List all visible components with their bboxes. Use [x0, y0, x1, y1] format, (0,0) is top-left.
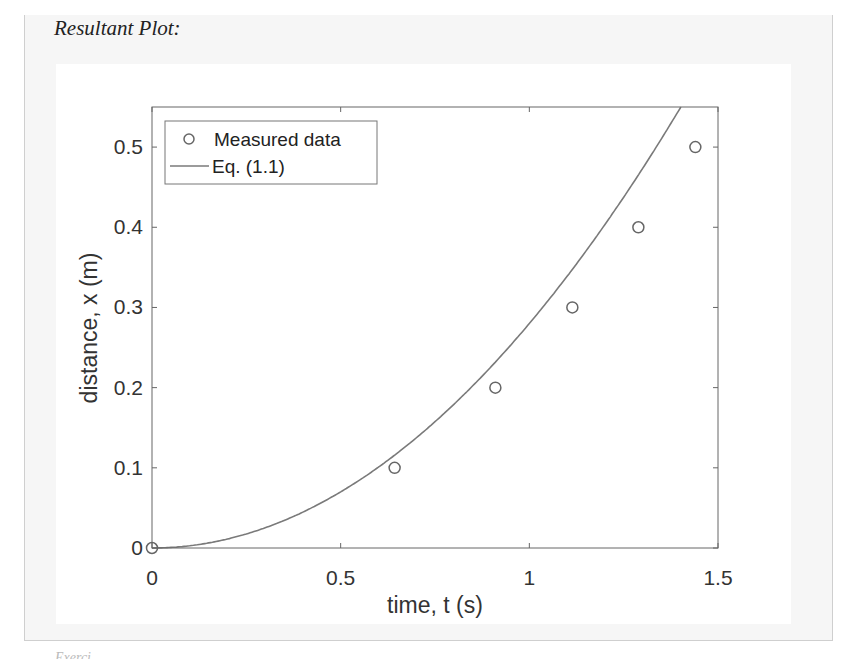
- y-tick-label: 0.4: [114, 215, 144, 238]
- footer-text-fragment: Exerci: [55, 650, 91, 659]
- y-tick-label: 0.5: [114, 135, 143, 158]
- legend-label-measured: Measured data: [214, 129, 341, 150]
- x-tick-label: 1: [523, 566, 535, 589]
- chart: 00.511.5 00.10.20.30.40.5 time, t (s) di…: [0, 0, 856, 659]
- data-point-marker: [567, 302, 578, 313]
- x-axis-label: time, t (s): [387, 592, 483, 618]
- x-tick-label: 1.5: [703, 566, 732, 589]
- x-tick-label: 0.5: [326, 566, 355, 589]
- y-tick-label: 0: [131, 536, 143, 559]
- data-point-marker: [389, 462, 400, 473]
- y-axis-ticks: 00.10.20.30.40.5: [114, 135, 718, 559]
- legend-label-equation: Eq. (1.1): [212, 156, 285, 177]
- y-tick-label: 0.3: [114, 295, 143, 318]
- data-point-marker: [633, 222, 644, 233]
- data-point-marker: [490, 382, 501, 393]
- legend: Measured data Eq. (1.1): [165, 121, 377, 184]
- y-tick-label: 0.1: [114, 456, 143, 479]
- y-tick-label: 0.2: [114, 376, 143, 399]
- y-axis-label: distance, x (m): [76, 253, 102, 404]
- x-tick-label: 0: [146, 566, 158, 589]
- measured-data-markers: [147, 142, 701, 554]
- data-point-marker: [690, 142, 701, 153]
